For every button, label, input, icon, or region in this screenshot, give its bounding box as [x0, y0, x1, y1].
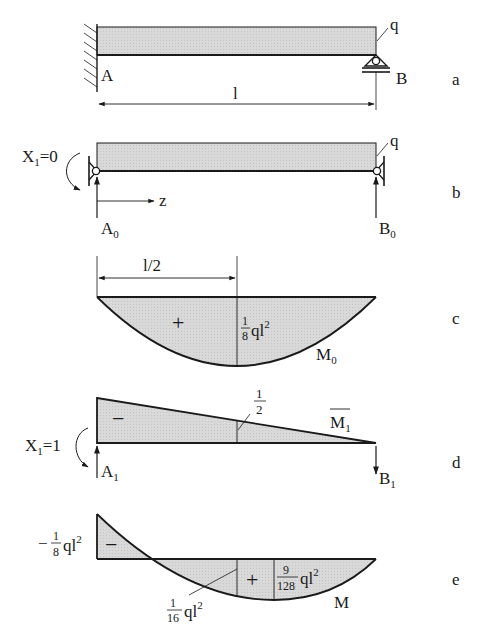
- sign-negative: −: [105, 532, 117, 557]
- mid-value-label: 1 2: [254, 386, 266, 417]
- moment-arrow-icon: [76, 428, 88, 467]
- svg-text:1: 1: [242, 314, 248, 328]
- span-label: l: [233, 84, 238, 103]
- half-span-label: l/2: [143, 256, 161, 275]
- reaction-label-b0: B0: [379, 219, 396, 240]
- panel-d: − 1 2 M1 X1=1 A1 B1 d: [25, 386, 461, 490]
- diagram-label-m: M: [334, 593, 349, 612]
- svg-text:−: −: [38, 534, 48, 553]
- panel-tag-d: d: [452, 453, 461, 472]
- diagram-label-m1-bar: M1: [330, 413, 351, 434]
- svg-text:ql2: ql2: [63, 533, 82, 555]
- moment-label-x1: X1=0: [22, 147, 58, 168]
- svg-text:1: 1: [256, 386, 263, 401]
- reaction-label-a1: A1: [101, 462, 119, 483]
- reaction-label-b1: B1: [379, 469, 396, 490]
- panel-c: l/2 + 1 8 ql2 M0 c: [97, 256, 460, 366]
- panel-tag-e: e: [452, 570, 460, 589]
- svg-text:ql2: ql2: [184, 599, 203, 621]
- svg-text:2: 2: [256, 402, 263, 417]
- midspan-moment-label: 1 16 ql2: [167, 596, 203, 625]
- load-label-q: q: [390, 131, 399, 150]
- distributed-load-q: [97, 27, 376, 55]
- moment-arrow-icon: [67, 153, 81, 190]
- diagram-label-m0: M0: [316, 345, 337, 366]
- panel-e: − + − 1 8 ql2 1 16 ql2 9 128 ql2 M e: [38, 514, 460, 625]
- svg-text:8: 8: [53, 545, 59, 559]
- sign-positive: +: [172, 310, 184, 335]
- svg-text:128: 128: [277, 579, 295, 593]
- beam-analysis-diagram: q A B l a q X1=0: [0, 0, 480, 634]
- svg-text:9: 9: [283, 563, 289, 577]
- sign-negative: −: [112, 406, 124, 431]
- svg-text:8: 8: [242, 329, 248, 343]
- svg-text:1: 1: [53, 529, 59, 543]
- panel-tag-a: a: [452, 70, 460, 89]
- sign-positive: +: [246, 567, 258, 592]
- support-label-a: A: [101, 66, 114, 85]
- panel-a: q A B l a: [84, 15, 460, 110]
- distributed-load-q: [97, 143, 376, 171]
- reaction-label-a0: A0: [101, 219, 119, 240]
- support-label-b: B: [396, 69, 407, 88]
- panel-tag-b: b: [452, 183, 461, 202]
- axis-label-z: z: [159, 191, 167, 210]
- support-moment-label: − 1 8 ql2: [38, 529, 82, 559]
- fixed-support-icon: [84, 24, 97, 92]
- svg-text:1: 1: [170, 596, 176, 610]
- roller-support-icon: [362, 55, 390, 72]
- panel-b: q X1=0 z A0 B0 b: [22, 131, 461, 240]
- svg-text:16: 16: [167, 611, 179, 625]
- load-label-q: q: [390, 15, 399, 34]
- moment-label-x1: X1=1: [25, 436, 61, 457]
- panel-tag-c: c: [452, 309, 460, 328]
